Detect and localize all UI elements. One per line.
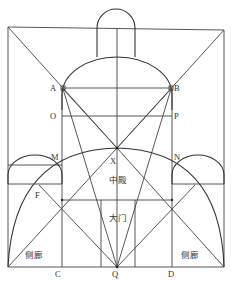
point-x-dot <box>116 147 119 150</box>
line-ax <box>63 89 117 148</box>
point-right-mid-dot <box>171 199 173 201</box>
label-c: C <box>55 269 61 279</box>
label-b: B <box>174 83 180 93</box>
top-tower <box>97 9 135 57</box>
label-main-gate: 大门 <box>109 213 127 223</box>
point-left-mid-dot <box>61 199 63 201</box>
label-a: A <box>50 83 57 93</box>
label-n: N <box>174 152 180 162</box>
label-main-hall: 中殿 <box>109 175 127 185</box>
label-x: X <box>110 156 116 166</box>
label-m: M <box>51 152 59 162</box>
point-q-dot <box>116 266 119 269</box>
label-d: D <box>168 269 174 279</box>
label-p: P <box>174 111 179 121</box>
label-side-aisle-right: 侧廊 <box>181 250 199 260</box>
label-o: O <box>50 111 56 121</box>
label-side-aisle-left: 侧廊 <box>25 250 43 260</box>
line-bx <box>117 89 171 148</box>
label-q: Q <box>112 269 118 279</box>
line-fq <box>39 185 117 267</box>
line-x-right-base <box>117 148 224 267</box>
proportion-diagram: A B O P M N X F C Q D 中殿 大门 侧廊 侧廊 <box>0 0 231 284</box>
label-f: F <box>35 190 40 200</box>
